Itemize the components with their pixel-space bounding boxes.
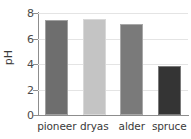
y-tick-mark bbox=[33, 90, 38, 91]
x-tick-label: pioneer bbox=[37, 120, 76, 132]
y-tick-mark bbox=[33, 13, 38, 14]
bar bbox=[45, 20, 68, 115]
y-tick-mark bbox=[33, 39, 38, 40]
plot-area bbox=[38, 13, 188, 115]
bar-chart: pH 02468 pioneerdryasalderspruce bbox=[0, 0, 191, 139]
bar bbox=[120, 24, 143, 115]
y-axis-tick-labels: 02468 bbox=[18, 0, 36, 139]
y-tick-mark bbox=[33, 115, 38, 116]
y-axis-label-text: pH bbox=[3, 50, 16, 66]
gridline bbox=[38, 13, 188, 14]
x-axis-tick-labels: pioneerdryasalderspruce bbox=[38, 118, 188, 138]
x-tick-label: spruce bbox=[152, 120, 187, 132]
bar bbox=[83, 19, 106, 115]
bar bbox=[158, 66, 181, 115]
x-axis-line bbox=[38, 115, 189, 116]
x-tick-label: alder bbox=[119, 120, 145, 132]
y-axis-label: pH bbox=[0, 0, 18, 115]
x-tick-label: dryas bbox=[80, 120, 109, 132]
y-tick-mark bbox=[33, 64, 38, 65]
